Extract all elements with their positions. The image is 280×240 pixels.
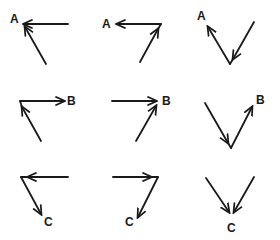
- cell-r1c3: A: [197, 9, 254, 64]
- arrow-down-left: [138, 177, 158, 217]
- cell-r2c1: B: [20, 94, 76, 141]
- label-a: A: [197, 9, 206, 23]
- arrow-down-left: [234, 177, 254, 212]
- arrow-up-right: [140, 29, 158, 62]
- arrow-down-right: [206, 178, 229, 212]
- label-b: B: [67, 94, 76, 108]
- arrow-up-right: [231, 107, 252, 148]
- arrow-down-right: [21, 177, 41, 214]
- arrow-up-right: [136, 106, 156, 141]
- label-c: C: [227, 221, 236, 235]
- cell-r3c3: C: [206, 177, 254, 235]
- arrow-down-right: [205, 103, 228, 143]
- cell-r1c2: A: [102, 17, 161, 62]
- label-a: A: [10, 12, 19, 26]
- arrow-up-left: [22, 107, 41, 141]
- cell-r1c1: A: [10, 12, 68, 64]
- cell-r3c1: C: [21, 177, 68, 229]
- label-c: C: [125, 215, 134, 229]
- label-b: B: [162, 94, 171, 108]
- cell-r3c2: C: [113, 177, 158, 229]
- arrow-down-left: [233, 22, 254, 59]
- label-c: C: [44, 215, 53, 229]
- label-b: B: [256, 93, 265, 107]
- arrow-up-left: [25, 27, 46, 64]
- cell-r2c2: B: [112, 94, 171, 141]
- label-a: A: [102, 17, 111, 31]
- vector-diagram-grid: A A A B B B C C: [0, 0, 280, 240]
- cell-r2c3: B: [205, 93, 265, 148]
- arrow-up-left: [208, 27, 230, 64]
